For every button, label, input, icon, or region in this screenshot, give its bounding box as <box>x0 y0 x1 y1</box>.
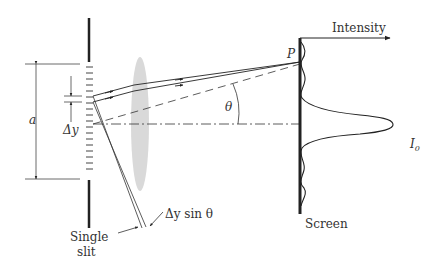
label-intensity: Intensity <box>332 21 386 35</box>
label-p: P <box>286 47 296 61</box>
label-a: a <box>29 113 36 127</box>
theta-arc <box>233 84 239 124</box>
slit-elements <box>86 67 93 169</box>
intensity-curve <box>301 42 393 206</box>
label-i0: I0 <box>409 137 420 153</box>
label-slit: slit <box>77 245 96 259</box>
delta-y-dimension <box>64 76 82 122</box>
label-screen: Screen <box>305 217 348 231</box>
path-difference-lines <box>93 96 163 233</box>
rays-to-p <box>93 62 300 102</box>
label-delta-y: Δy <box>62 123 79 137</box>
label-theta: θ <box>225 100 233 114</box>
label-path-diff: Δy sin θ <box>165 207 213 221</box>
single-slit-diffraction-diagram: a Δy θ Δy sin θ Screen Intensit <box>0 0 446 266</box>
label-single: Single <box>70 230 108 244</box>
